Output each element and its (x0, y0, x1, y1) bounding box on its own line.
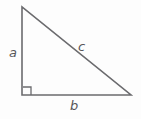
right-angle-marker-icon (23, 87, 31, 95)
triangle-outline (22, 7, 131, 95)
side-label-b: b (70, 99, 78, 112)
right-triangle-figure: a c b (0, 0, 141, 119)
side-label-c: c (78, 40, 85, 53)
side-label-a: a (9, 46, 17, 59)
